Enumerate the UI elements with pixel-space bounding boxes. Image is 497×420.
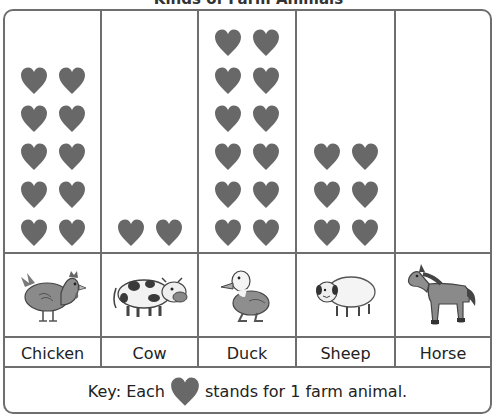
column-sheep — [297, 11, 394, 253]
heart-icon — [57, 104, 87, 134]
legend-key: Key: Each stands for 1 farm animal. — [5, 369, 490, 413]
heart-icon — [57, 180, 87, 210]
heart-icon — [57, 142, 87, 172]
heart-icon — [169, 376, 201, 408]
heart-icon — [19, 180, 49, 210]
chart-title: Kinds of Farm Animals — [0, 0, 497, 7]
heart-icon — [19, 218, 49, 248]
heart-icon — [312, 180, 342, 210]
heart-icon — [154, 218, 184, 248]
heart-icon — [312, 218, 342, 248]
category-label-sheep: Sheep — [297, 339, 394, 367]
heart-icon — [19, 142, 49, 172]
heart-icon — [213, 66, 243, 96]
category-label-duck: Duck — [199, 339, 295, 367]
heart-icon — [57, 66, 87, 96]
heart-icon — [251, 180, 281, 210]
cow-icon — [102, 255, 197, 337]
horse-icon — [396, 255, 490, 337]
column-duck — [199, 11, 295, 253]
chicken-icon — [5, 255, 100, 337]
heart-icon — [312, 142, 342, 172]
heart-icon — [19, 104, 49, 134]
heart-icon — [251, 218, 281, 248]
category-label-cow: Cow — [102, 339, 197, 367]
heart-icon — [251, 28, 281, 58]
key-prefix: Key: Each — [88, 382, 165, 401]
heart-icon — [19, 66, 49, 96]
column-chicken — [5, 11, 100, 253]
heart-icon — [213, 180, 243, 210]
heart-icon — [251, 66, 281, 96]
heart-icon — [251, 142, 281, 172]
heart-icon — [116, 218, 146, 248]
heart-icon — [213, 104, 243, 134]
heart-icon — [350, 142, 380, 172]
heart-icon — [251, 104, 281, 134]
heart-icon — [213, 28, 243, 58]
key-suffix: stands for 1 farm animal. — [205, 382, 407, 401]
category-label-chicken: Chicken — [5, 339, 100, 367]
heart-icon — [57, 218, 87, 248]
heart-icon — [213, 218, 243, 248]
column-horse — [396, 11, 490, 253]
duck-icon — [199, 255, 295, 337]
heart-icon — [350, 180, 380, 210]
heart-icon — [213, 142, 243, 172]
sheep-icon — [297, 255, 394, 337]
column-cow — [102, 11, 197, 253]
category-label-horse: Horse — [396, 339, 490, 367]
heart-icon — [350, 218, 380, 248]
